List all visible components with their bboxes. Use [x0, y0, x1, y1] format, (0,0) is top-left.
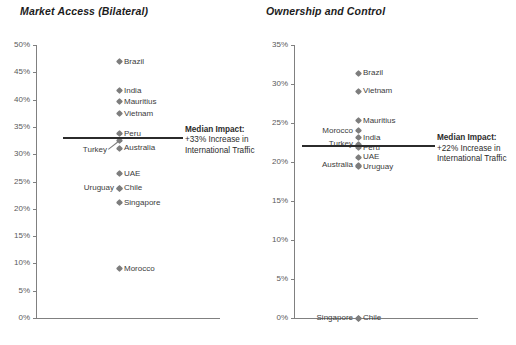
median-impact-line2: +33% Increase in: [185, 135, 254, 145]
y-axis-tick-label: 30%: [0, 150, 30, 158]
data-point-marker: [115, 185, 122, 192]
y-axis-tick-label: 10%: [258, 236, 288, 244]
y-axis-tick-label: 45%: [0, 68, 30, 76]
median-impact-annotation: Median Impact:+22% Increase inInternatio…: [437, 133, 506, 164]
median-impact-header: Median Impact:: [185, 125, 254, 135]
y-axis-tick: [33, 236, 37, 237]
y-axis-tick-label: 20%: [258, 158, 288, 166]
y-axis-tick: [33, 182, 37, 183]
y-axis-tick: [33, 45, 37, 46]
y-axis-tick-label: 5%: [258, 275, 288, 283]
data-point-label: India: [363, 134, 380, 142]
data-point-label: Uruguay: [84, 184, 114, 192]
y-axis-tick: [33, 72, 37, 73]
y-axis-tick: [33, 100, 37, 101]
y-axis-tick-label: 0%: [258, 314, 288, 322]
y-axis-tick: [33, 209, 37, 210]
data-point-label: Chile: [363, 314, 381, 322]
y-axis-tick-label: 5%: [0, 287, 30, 295]
y-axis-tick-label: 15%: [0, 232, 30, 240]
data-point-label: India: [124, 87, 141, 95]
y-axis-tick: [291, 201, 295, 202]
y-axis-tick: [33, 291, 37, 292]
y-axis-tick-label: 40%: [0, 96, 30, 104]
y-axis-tick: [291, 318, 295, 319]
data-point-marker: [115, 145, 122, 152]
x-axis-line: [36, 318, 220, 319]
data-point-label: Australia: [124, 144, 155, 152]
data-point-marker: [354, 87, 361, 94]
data-point-label: Mauritius: [124, 98, 156, 106]
y-axis-tick: [33, 154, 37, 155]
data-point-marker: [115, 170, 122, 177]
data-point-marker: [354, 314, 361, 321]
data-point-marker: [115, 265, 122, 272]
data-point-label: Australia: [322, 161, 353, 169]
y-axis-tick-label: 25%: [0, 178, 30, 186]
data-point-marker: [354, 117, 361, 124]
data-point-marker: [354, 163, 361, 170]
plot-area-ownership-control: 35%30%25%20%15%10%5%0%BrazilVietnamMauri…: [258, 0, 516, 345]
y-axis-tick: [291, 240, 295, 241]
median-impact-header: Median Impact:: [437, 133, 506, 143]
y-axis-tick: [33, 318, 37, 319]
median-impact-annotation: Median Impact:+33% Increase inInternatio…: [185, 125, 254, 156]
data-point-label: Uruguay: [363, 163, 393, 171]
median-impact-line2: +22% Increase in: [437, 144, 506, 154]
y-axis-tick-label: 0%: [0, 314, 30, 322]
y-axis-tick: [291, 279, 295, 280]
y-axis-line: [294, 45, 295, 319]
y-axis-tick-label: 20%: [0, 205, 30, 213]
plot-area-market-access: 50%45%40%35%30%25%20%15%10%5%0%BrazilInd…: [0, 0, 258, 345]
data-point-marker: [354, 70, 361, 77]
data-point-marker: [115, 58, 122, 65]
data-point-label: Brazil: [363, 69, 383, 77]
data-point-label: Turkey: [83, 146, 107, 154]
data-point-label: Mauritius: [363, 117, 395, 125]
data-point-label: Vietnam: [124, 110, 153, 118]
data-point-label: Singapore: [317, 314, 353, 322]
median-impact-line3: International Traffic: [185, 146, 254, 156]
y-axis-tick: [291, 123, 295, 124]
data-point-label: Vietnam: [363, 87, 392, 95]
y-axis-tick: [33, 127, 37, 128]
data-point-label: Morocco: [322, 127, 353, 135]
data-point-marker: [115, 110, 122, 117]
data-point-label: Morocco: [124, 265, 155, 273]
data-point-marker: [115, 199, 122, 206]
data-point-marker: [354, 154, 361, 161]
data-point-marker: [115, 98, 122, 105]
y-axis-tick-label: 25%: [258, 119, 288, 127]
y-axis-tick-label: 15%: [258, 197, 288, 205]
y-axis-tick-label: 35%: [0, 123, 30, 131]
y-axis-tick-label: 35%: [258, 41, 288, 49]
y-axis-tick: [33, 263, 37, 264]
chart-panel-market-access: Market Access (Bilateral) 50%45%40%35%30…: [0, 0, 258, 345]
y-axis-tick-label: 10%: [0, 259, 30, 267]
data-point-label: Chile: [124, 184, 142, 192]
y-axis-tick-label: 50%: [0, 41, 30, 49]
chart-panel-ownership-control: Ownership and Control 35%30%25%20%15%10%…: [258, 0, 516, 345]
data-point-marker: [115, 87, 122, 94]
y-axis-tick-label: 30%: [258, 80, 288, 88]
data-point-label: Brazil: [124, 58, 144, 66]
y-axis-tick: [291, 45, 295, 46]
median-impact-line3: International Traffic: [437, 154, 506, 164]
median-impact-line: [63, 137, 183, 139]
data-point-label: UAE: [363, 153, 379, 161]
median-impact-line: [302, 145, 435, 147]
data-point-label: Singapore: [124, 199, 160, 207]
y-axis-tick: [291, 84, 295, 85]
y-axis-tick: [291, 162, 295, 163]
data-point-label: UAE: [124, 170, 140, 178]
